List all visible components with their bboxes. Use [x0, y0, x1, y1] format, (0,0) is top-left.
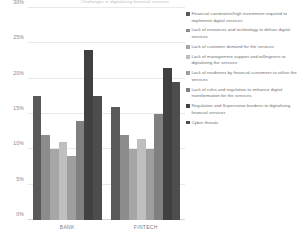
legend-swatch-icon — [186, 45, 190, 49]
bar[interactable] — [93, 96, 102, 220]
bar[interactable] — [76, 121, 85, 220]
bars-layer — [28, 8, 185, 220]
bar[interactable] — [154, 114, 163, 220]
legend-label: Regulation and Supervision burdens to di… — [191, 103, 304, 116]
legend-item[interactable]: Cyber threats — [186, 120, 304, 127]
legend-label: Lack of resources and technology to deli… — [191, 27, 304, 40]
legend-label: Lack of readiness by financial customers… — [191, 70, 304, 83]
y-axis-tick-label: 20% — [13, 70, 24, 76]
y-axis-tick-label: 25% — [13, 34, 24, 40]
chart-title: Challenges in digitalising financial ser… — [60, 0, 190, 4]
legend-swatch-icon — [186, 104, 190, 108]
legend-item[interactable]: Lack of resources and technology to deli… — [186, 27, 304, 40]
legend-item[interactable]: Lack of readiness by financial customers… — [186, 70, 304, 83]
legend-item[interactable]: Regulation and Supervision burdens to di… — [186, 103, 304, 116]
legend-item[interactable]: Lack of rules and regulation to enhance … — [186, 87, 304, 100]
legend-swatch-icon — [186, 55, 190, 59]
x-axis-tick-label: BANK — [60, 224, 75, 230]
y-axis-tick-label: 5% — [16, 176, 24, 182]
bar-group — [33, 8, 102, 220]
plot-area — [28, 8, 185, 220]
y-axis-tick-label: 30% — [13, 0, 24, 5]
legend-label: Lack of rules and regulation to enhance … — [191, 87, 304, 100]
bar[interactable] — [84, 50, 93, 220]
legend-swatch-icon — [186, 121, 190, 125]
legend-swatch-icon — [186, 12, 190, 16]
bar[interactable] — [146, 149, 155, 220]
bar[interactable] — [163, 68, 172, 220]
bar-group — [111, 8, 180, 220]
legend-swatch-icon — [186, 71, 190, 75]
legend-label: Lack of customer demand for the services — [191, 44, 274, 51]
legend-item[interactable]: Lack of customer demand for the services — [186, 44, 304, 51]
legend-item[interactable]: Lack of management support and willingne… — [186, 54, 304, 67]
y-axis-tick-label: 0% — [16, 211, 24, 217]
bar[interactable] — [59, 142, 68, 220]
legend-label: Lack of management support and willingne… — [191, 54, 304, 67]
y-axis-tick-label: 10% — [13, 140, 24, 146]
bar[interactable] — [111, 107, 120, 220]
legend-swatch-icon — [186, 29, 190, 33]
legend-swatch-icon — [186, 88, 190, 92]
legend-item[interactable]: Financial constraints/high investment re… — [186, 11, 304, 24]
bar[interactable] — [67, 156, 76, 220]
bar[interactable] — [33, 96, 42, 220]
bar-chart: Challenges in digitalising financial ser… — [0, 0, 306, 243]
bar[interactable] — [137, 139, 146, 220]
chart-legend: Financial constraints/high investment re… — [186, 11, 304, 130]
x-axis: BANKFINTECH — [28, 224, 185, 236]
bar[interactable] — [50, 149, 59, 220]
bar[interactable] — [172, 82, 181, 220]
legend-label: Cyber threats — [191, 120, 218, 127]
y-axis-tick-label: 15% — [13, 105, 24, 111]
bar[interactable] — [41, 135, 50, 220]
legend-label: Financial constraints/high investment re… — [191, 11, 304, 24]
y-axis: 0%5%10%15%20%25%30% — [2, 8, 26, 220]
bar[interactable] — [120, 135, 129, 220]
bar[interactable] — [129, 149, 138, 220]
x-axis-tick-label: FINTECH — [134, 224, 158, 230]
